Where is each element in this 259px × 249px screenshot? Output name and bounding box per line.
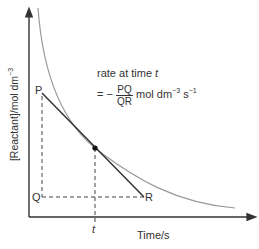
- tangent-line: [42, 93, 144, 197]
- point-p-label: P: [35, 84, 42, 96]
- point-r-label: R: [145, 191, 153, 203]
- point-q-label: Q: [32, 191, 41, 203]
- rate-fraction: PQ QR: [116, 84, 133, 107]
- rate-annotation-title: rate at time t: [97, 67, 158, 79]
- x-axis-label: Time/s: [137, 229, 170, 241]
- rate-tangent-diagram: [Reactant]/mol dm−3 P Q R t Time/s rate …: [0, 0, 259, 249]
- tangent-point: [92, 145, 97, 150]
- y-axis-label: [Reactant]/mol dm−3: [7, 60, 20, 170]
- diagram-canvas: [0, 0, 259, 249]
- t-label: t: [92, 223, 95, 235]
- rate-annotation-equation: = − PQ QR mol dm−3 s−1: [97, 84, 197, 107]
- concentration-curve: [38, 8, 235, 208]
